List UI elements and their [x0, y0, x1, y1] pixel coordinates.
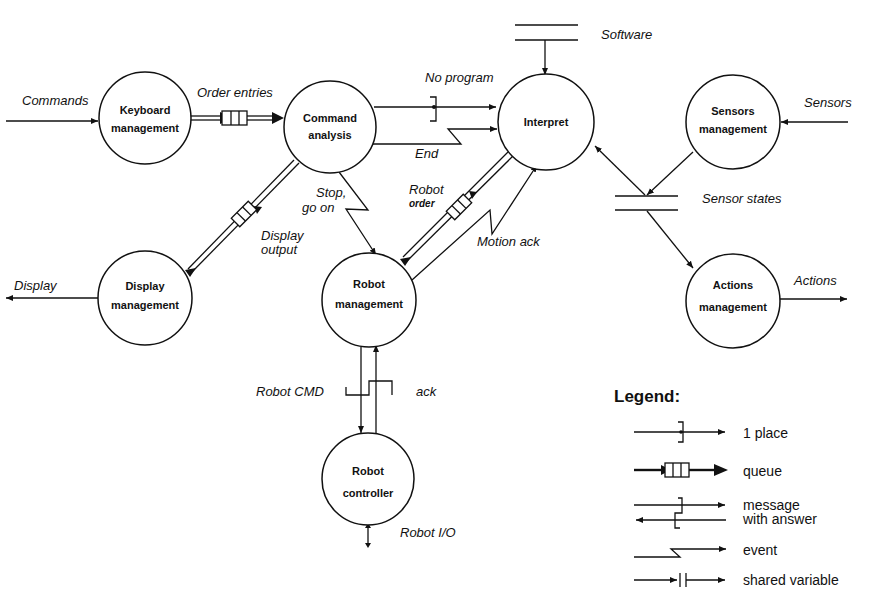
diagram-canvas: Keyboard management Command analysis Int… — [0, 0, 876, 594]
label-robot-io: Robot I/O — [400, 525, 456, 540]
software-store — [515, 25, 578, 75]
label-sensors: Sensors — [804, 95, 852, 110]
legend-label: with answer — [742, 511, 817, 527]
node-label: Actions — [713, 279, 753, 291]
node-label: analysis — [308, 129, 351, 141]
legend-label: shared variable — [743, 572, 839, 588]
legend-label: event — [743, 542, 777, 558]
node-label: Display — [125, 280, 165, 292]
legend-queue-icon — [634, 463, 728, 477]
label-actions: Actions — [793, 273, 837, 288]
node-label: Command — [303, 112, 357, 124]
display-output-queue — [185, 160, 299, 277]
node-label: management — [699, 301, 767, 313]
label-robot-order: Robot — [409, 182, 445, 197]
robot-cmd-message — [346, 345, 392, 433]
label-go-on: go on — [302, 200, 335, 215]
node-label: management — [111, 299, 179, 311]
legend-title: Legend: — [614, 387, 680, 406]
node-keyboard-management[interactable]: Keyboard management — [99, 72, 191, 164]
node-sensors-management[interactable]: Sensors management — [686, 75, 780, 169]
node-label: management — [335, 298, 403, 310]
node-robot-controller[interactable]: Robot controller — [322, 433, 414, 525]
legend-event-icon — [634, 549, 726, 557]
label-robot-order-2: order — [409, 198, 436, 209]
node-label: management — [111, 122, 179, 134]
legend-label: queue — [743, 463, 782, 479]
node-label: Sensors — [711, 105, 754, 117]
legend-shared-variable-icon — [634, 573, 725, 587]
node-robot-management[interactable]: Robot management — [322, 253, 416, 347]
label-order-entries: Order entries — [197, 85, 273, 100]
node-label: controller — [343, 487, 394, 499]
label-end: End — [415, 146, 439, 161]
label-ack: ack — [416, 384, 438, 399]
label-robot-cmd: Robot CMD — [256, 384, 324, 399]
legend-label: 1 place — [743, 425, 788, 441]
node-command-analysis[interactable]: Command analysis — [284, 81, 376, 173]
label-no-program: No program — [425, 70, 494, 85]
node-label: Keyboard — [120, 104, 171, 116]
label-sensor-states: Sensor states — [702, 191, 782, 206]
no-program-flow — [374, 97, 496, 121]
node-label: management — [699, 123, 767, 135]
node-display-management[interactable]: Display management — [98, 251, 192, 345]
label-software: Software — [601, 27, 652, 42]
label-display-output-2: output — [261, 242, 299, 257]
label-commands: Commands — [22, 93, 89, 108]
node-label: Robot — [353, 278, 385, 290]
legend-message-with-answer-icon — [634, 498, 726, 528]
legend-1-place-icon — [634, 422, 725, 442]
label-display-output: Display — [261, 228, 305, 243]
label-stop: Stop, — [316, 185, 346, 200]
sensor-states-store — [595, 146, 693, 268]
end-event-flow — [372, 129, 497, 144]
robot-io-flow — [365, 523, 371, 548]
label-display: Display — [14, 278, 58, 293]
order-entries-queue — [191, 111, 284, 125]
node-interpret[interactable]: Interpret — [498, 74, 594, 170]
legend: Legend: 1 place queue message with answe… — [614, 387, 839, 588]
node-label: Interpret — [524, 116, 569, 128]
node-label: Robot — [352, 465, 384, 477]
label-motion-ack: Motion ack — [477, 234, 541, 249]
node-actions-management[interactable]: Actions management — [686, 254, 780, 348]
